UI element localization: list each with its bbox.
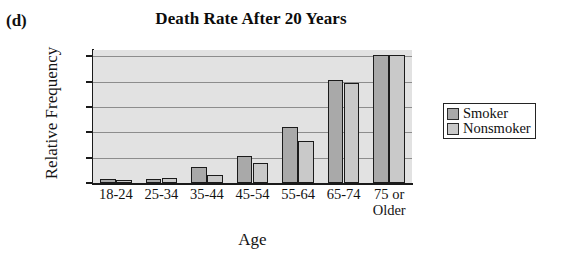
bars-layer: [93, 50, 412, 183]
legend-label: Nonsmoker: [463, 120, 531, 137]
chart-title: Death Rate After 20 Years: [86, 9, 416, 29]
bar-smoker-75-or-Older: [373, 55, 389, 183]
x-axis-line: [92, 183, 413, 185]
x-tick-label: 75 or Older: [359, 186, 419, 218]
legend-item-nonsmoker: Nonsmoker: [447, 121, 531, 136]
bar-smoker-35-44: [191, 167, 207, 183]
bar-nonsmoker-55-64: [298, 141, 314, 183]
legend-item-smoker: Smoker: [447, 106, 531, 121]
x-axis-tick-labels: 18-2425-3435-4445-5455-6465-7475 or Olde…: [93, 186, 412, 232]
plot-area: [93, 50, 412, 183]
bar-smoker-25-34: [146, 179, 162, 183]
legend: SmokerNonsmoker: [443, 103, 536, 139]
bar-smoker-55-64: [282, 127, 298, 183]
x-axis-title: Age: [93, 230, 412, 250]
chart-figure: (d) Death Rate After 20 Years Relative F…: [0, 0, 567, 260]
bar-nonsmoker-25-34: [162, 178, 178, 183]
bar-smoker-65-74: [328, 80, 344, 183]
bar-nonsmoker-35-44: [207, 175, 223, 183]
bar-smoker-18-24: [100, 179, 116, 183]
y-axis-ticks: 00.20.40.60.81: [0, 0, 93, 200]
bar-nonsmoker-65-74: [344, 83, 360, 183]
bar-nonsmoker-18-24: [116, 180, 132, 183]
bar-nonsmoker-75-or-Older: [389, 55, 405, 183]
bar-nonsmoker-45-54: [253, 163, 269, 183]
bar-smoker-45-54: [237, 156, 253, 183]
legend-swatch-icon: [447, 108, 459, 120]
legend-swatch-icon: [447, 123, 459, 135]
